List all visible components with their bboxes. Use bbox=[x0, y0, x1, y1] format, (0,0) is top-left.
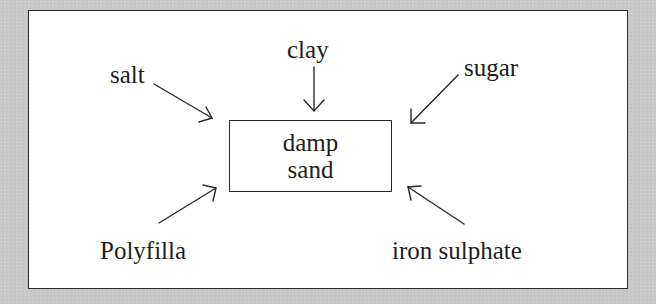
label-clay: clay bbox=[287, 37, 329, 62]
label-salt: salt bbox=[110, 62, 145, 87]
center-box-damp-sand: damp sand bbox=[229, 120, 392, 192]
label-iron-sulphate: iron sulphate bbox=[392, 238, 522, 263]
center-label-line-2: sand bbox=[288, 156, 334, 183]
label-sugar: sugar bbox=[464, 55, 518, 80]
center-label-line-1: damp bbox=[283, 129, 339, 156]
label-polyfilla: Polyfilla bbox=[100, 238, 186, 263]
